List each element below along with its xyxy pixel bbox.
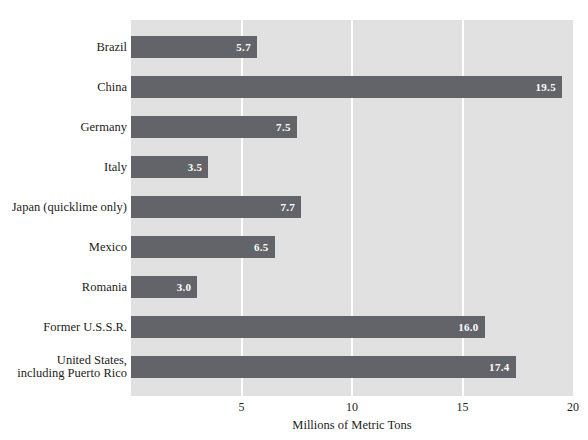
bar: 6.5 — [131, 236, 275, 258]
bar: 3.0 — [131, 276, 197, 298]
bar: 16.0 — [131, 316, 485, 338]
category-label: Former U.S.S.R. — [0, 321, 127, 334]
bar-value-label: 7.7 — [281, 196, 296, 218]
bar-value-label: 3.5 — [188, 156, 203, 178]
category-label: Germany — [0, 121, 127, 134]
bar-row: 3.5 — [131, 156, 208, 178]
plot-area: 5.719.57.53.57.76.53.016.017.4 — [131, 20, 573, 396]
chart-title — [0, 0, 588, 1]
bar-row: 6.5 — [131, 236, 275, 258]
bar-chart-figure: 5.719.57.53.57.76.53.016.017.4 Millions … — [0, 0, 588, 440]
category-label-line: Mexico — [0, 241, 127, 254]
bar-row: 19.5 — [131, 76, 562, 98]
bar-value-label: 19.5 — [535, 76, 555, 98]
category-label-line: Romania — [0, 281, 127, 294]
bar-value-label: 3.0 — [177, 276, 192, 298]
bar: 5.7 — [131, 36, 257, 58]
category-label: China — [0, 81, 127, 94]
bar: 3.5 — [131, 156, 208, 178]
category-label-line: Italy — [0, 161, 127, 174]
category-label-line: including Puerto Rico — [0, 367, 127, 380]
bar-value-label: 7.5 — [276, 116, 291, 138]
bar: 19.5 — [131, 76, 562, 98]
bar: 7.5 — [131, 116, 297, 138]
bar-value-label: 5.7 — [236, 36, 251, 58]
bar-value-label: 17.4 — [489, 356, 509, 378]
category-label: United States,including Puerto Rico — [0, 354, 127, 380]
category-label-line: China — [0, 81, 127, 94]
x-tick-label: 5 — [222, 400, 262, 415]
category-label: Japan (quicklime only) — [0, 201, 127, 214]
bar-row: 5.7 — [131, 36, 257, 58]
bar-row: 7.5 — [131, 116, 297, 138]
category-label-line: Brazil — [0, 41, 127, 54]
bar-row: 7.7 — [131, 196, 301, 218]
x-tick-label: 10 — [332, 400, 372, 415]
x-tick-label: 15 — [443, 400, 483, 415]
bar-row: 3.0 — [131, 276, 197, 298]
x-axis-title: Millions of Metric Tons — [131, 418, 573, 433]
x-tick-label: 20 — [553, 400, 588, 415]
bar-row: 16.0 — [131, 316, 485, 338]
bar-value-label: 16.0 — [458, 316, 478, 338]
category-label: Italy — [0, 161, 127, 174]
bar-value-label: 6.5 — [254, 236, 269, 258]
bar: 17.4 — [131, 356, 516, 378]
category-label: Mexico — [0, 241, 127, 254]
category-label: Romania — [0, 281, 127, 294]
category-label-line: Germany — [0, 121, 127, 134]
bar-row: 17.4 — [131, 356, 516, 378]
bar: 7.7 — [131, 196, 301, 218]
category-label-line: Japan (quicklime only) — [0, 201, 127, 214]
category-label-line: Former U.S.S.R. — [0, 321, 127, 334]
category-label: Brazil — [0, 41, 127, 54]
